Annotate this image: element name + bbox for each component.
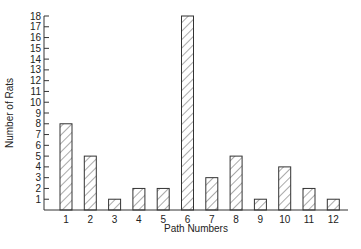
y-tick-label: 16 [30, 32, 42, 43]
y-tick-label: 1 [35, 194, 41, 205]
y-tick-label: 8 [35, 118, 41, 129]
bar-path-8 [230, 156, 242, 210]
bar-path-2 [84, 156, 96, 210]
bar-path-12 [327, 199, 339, 210]
x-tick-label: 4 [136, 214, 142, 225]
y-tick-label: 13 [30, 64, 42, 75]
y-tick-label: 7 [35, 129, 41, 140]
y-tick-label: 15 [30, 43, 42, 54]
y-axis-label: Number of Rats [4, 78, 15, 148]
x-tick-label: 12 [328, 214, 340, 225]
x-axis-label: Path Numbers [164, 223, 228, 234]
bar-chart: 123456789101112131415161718 123456789101… [0, 0, 361, 249]
bar-path-3 [109, 199, 121, 210]
y-tick-label: 9 [35, 108, 41, 119]
x-tick-label: 1 [63, 214, 69, 225]
y-axis: 123456789101112131415161718 [30, 11, 49, 211]
bar-path-9 [254, 199, 266, 210]
y-tick-label: 14 [30, 54, 42, 65]
bar-path-1 [60, 124, 72, 210]
bar-path-6 [182, 16, 194, 210]
bar-path-7 [206, 178, 218, 210]
y-tick-label: 6 [35, 140, 41, 151]
y-tick-label: 4 [35, 161, 41, 172]
y-tick-label: 5 [35, 151, 41, 162]
bars [60, 16, 339, 210]
x-tick-label: 2 [88, 214, 94, 225]
x-tick-label: 10 [279, 214, 291, 225]
bar-path-10 [279, 167, 291, 210]
y-tick-label: 18 [30, 11, 42, 22]
bar-path-11 [303, 188, 315, 210]
y-tick-label: 2 [35, 183, 41, 194]
bar-path-5 [157, 188, 169, 210]
y-tick-label: 3 [35, 172, 41, 183]
x-tick-label: 9 [258, 214, 264, 225]
x-tick-label: 11 [304, 214, 315, 225]
x-tick-label: 3 [112, 214, 118, 225]
y-tick-label: 11 [31, 86, 42, 97]
x-tick-label: 8 [233, 214, 239, 225]
bar-path-4 [133, 188, 145, 210]
y-tick-label: 12 [30, 75, 42, 86]
y-tick-label: 17 [30, 21, 42, 32]
y-tick-label: 10 [30, 97, 42, 108]
